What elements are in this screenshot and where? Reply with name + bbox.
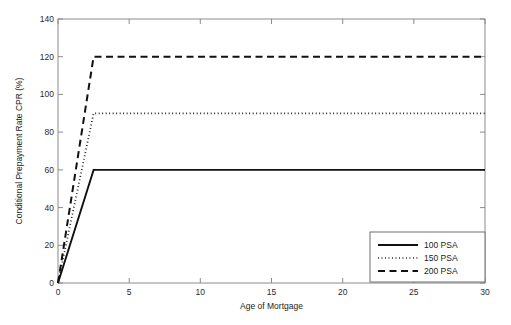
- y-axis-title: Conditional Prepayment Rate CPR (%): [14, 77, 24, 224]
- legend-label-150-psa: 150 PSA: [424, 253, 458, 263]
- y-tick-label-0: 0: [49, 278, 54, 288]
- y-tick-label-100: 100: [40, 89, 54, 99]
- x-tick-label-15: 15: [267, 287, 277, 297]
- y-tick-label-140: 140: [40, 14, 54, 24]
- y-tick-label-20: 20: [45, 240, 55, 250]
- legend-label-100-psa: 100 PSA: [424, 240, 458, 250]
- x-tick-label-0: 0: [56, 287, 61, 297]
- y-tick-label-40: 40: [45, 203, 55, 213]
- legend-label-200-psa: 200 PSA: [424, 266, 458, 276]
- x-tick-label-25: 25: [409, 287, 419, 297]
- y-tick-label-80: 80: [45, 127, 55, 137]
- figure-canvas: 0 20 40 60 80 100 120 140 0 5: [0, 0, 511, 325]
- y-tick-label-60: 60: [45, 165, 55, 175]
- x-tick-label-20: 20: [338, 287, 348, 297]
- x-tick-label-10: 10: [196, 287, 206, 297]
- chart-svg: 0 20 40 60 80 100 120 140 0 5: [0, 0, 511, 325]
- x-tick-label-30: 30: [480, 287, 490, 297]
- x-tick-label-5: 5: [127, 287, 132, 297]
- y-tick-label-120: 120: [40, 52, 54, 62]
- x-axis-title: Age of Mortgage: [240, 301, 303, 311]
- legend[interactable]: 100 PSA 150 PSA 200 PSA: [370, 232, 485, 282]
